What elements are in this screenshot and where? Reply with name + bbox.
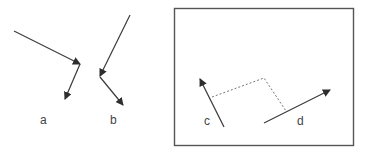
label-d: d	[297, 114, 304, 128]
vector-a2	[65, 64, 80, 99]
dashed-construction	[212, 78, 286, 111]
figure-b: b	[100, 15, 130, 127]
vector-b2	[100, 77, 123, 105]
vector-b1	[100, 15, 130, 76]
label-b: b	[110, 113, 117, 127]
vector-a1	[14, 31, 80, 64]
figure-cd: c d	[175, 9, 354, 146]
figure-a: a	[14, 31, 80, 127]
label-a: a	[40, 113, 47, 127]
label-c: c	[204, 114, 210, 128]
frame-box	[175, 9, 354, 146]
vector-diagram: a b c d	[0, 0, 365, 152]
